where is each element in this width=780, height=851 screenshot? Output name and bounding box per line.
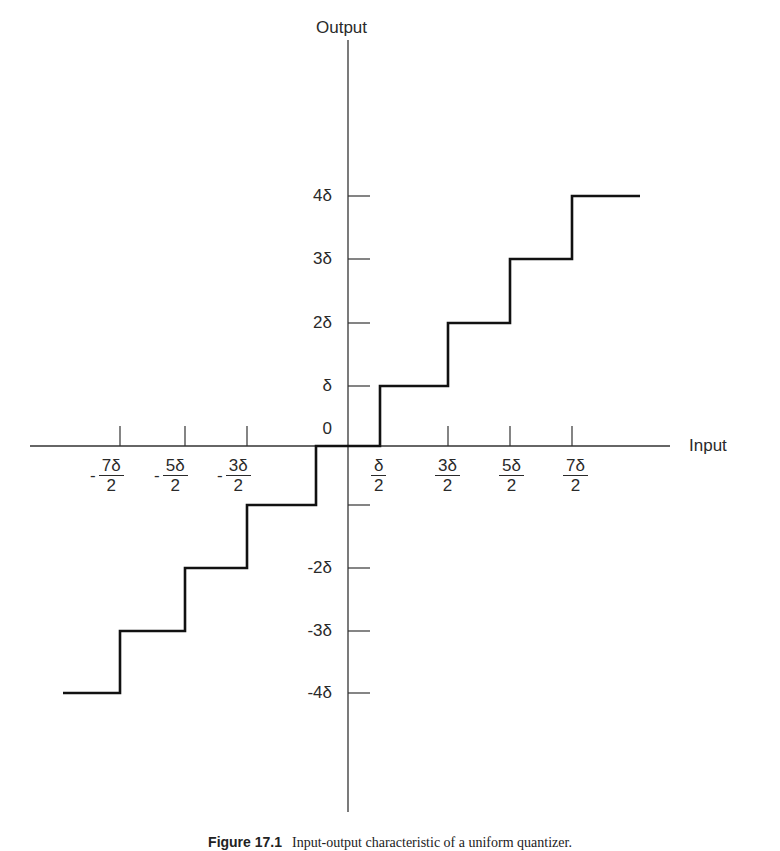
x-tick-label: 3δ2: [435, 456, 460, 495]
y-tick-label: 2δ: [272, 313, 332, 333]
y-ticks: [348, 196, 370, 693]
caption-label: Figure 17.1: [208, 834, 282, 850]
minus-sign: -: [217, 466, 223, 486]
x-tick-label: - 5δ2: [154, 456, 188, 495]
denominator: 2: [571, 476, 580, 495]
y-tick-label-zero: 0: [272, 419, 332, 439]
numerator: 3δ: [226, 456, 251, 476]
x-tick-label: 5δ2: [499, 456, 524, 495]
numerator: δ: [371, 456, 386, 476]
figure-caption: Figure 17.1Input-output characteristic o…: [0, 834, 780, 851]
minus-sign: -: [90, 466, 96, 486]
denominator: 2: [374, 476, 383, 495]
numerator: 7δ: [563, 456, 588, 476]
x-axis-title: Input: [689, 436, 727, 456]
minus-sign: -: [154, 466, 160, 486]
quantizer-staircase: [63, 196, 640, 693]
x-tick-label: - 3δ2: [217, 456, 251, 495]
denominator: 2: [106, 476, 115, 495]
x-tick-label: - 7δ2: [90, 456, 124, 495]
y-tick-label: 4δ: [272, 186, 332, 206]
numerator: 3δ: [435, 456, 460, 476]
x-ticks: [120, 426, 572, 446]
numerator: 7δ: [99, 456, 124, 476]
numerator: 5δ: [499, 456, 524, 476]
denominator: 2: [233, 476, 242, 495]
numerator: 5δ: [163, 456, 188, 476]
y-tick-label: δ: [272, 376, 332, 396]
y-axis-title: Output: [316, 18, 367, 38]
denominator: 2: [443, 476, 452, 495]
y-tick-label: -4δ: [272, 683, 332, 703]
y-tick-label: -2δ: [272, 558, 332, 578]
y-tick-label: -3δ: [272, 621, 332, 641]
x-tick-label: 7δ2: [563, 456, 588, 495]
x-tick-label: δ2: [371, 456, 386, 495]
caption-text: Input-output characteristic of a uniform…: [292, 835, 572, 850]
denominator: 2: [507, 476, 516, 495]
y-tick-label: 3δ: [272, 249, 332, 269]
denominator: 2: [170, 476, 179, 495]
